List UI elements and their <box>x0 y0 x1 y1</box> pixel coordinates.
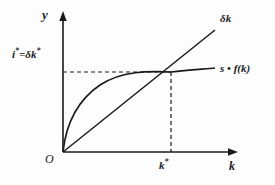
investment-equation-rest: =δk <box>19 48 36 60</box>
savings-curve <box>63 68 215 152</box>
x-axis-arrowhead <box>228 148 238 155</box>
steady-state-investment-label: i*=δk* <box>12 49 40 60</box>
investment-equation-asterisk: * <box>36 46 40 55</box>
solow-model-diagram: y O k k* i*=δk* δk s • f(k) <box>0 0 275 185</box>
steady-state-capital-asterisk: * <box>165 157 169 166</box>
y-axis-arrowhead <box>59 11 66 21</box>
y-axis <box>59 11 66 152</box>
x-axis-label: k <box>229 160 235 172</box>
x-axis <box>63 148 238 155</box>
depreciation-line <box>63 30 215 152</box>
y-axis-label: y <box>42 8 48 21</box>
depreciation-line-label: δk <box>220 13 231 24</box>
origin-label: O <box>45 153 54 165</box>
diagram-canvas <box>0 0 275 185</box>
steady-state-capital-label: k* <box>159 160 168 171</box>
savings-curve-label: s • f(k) <box>220 63 250 74</box>
